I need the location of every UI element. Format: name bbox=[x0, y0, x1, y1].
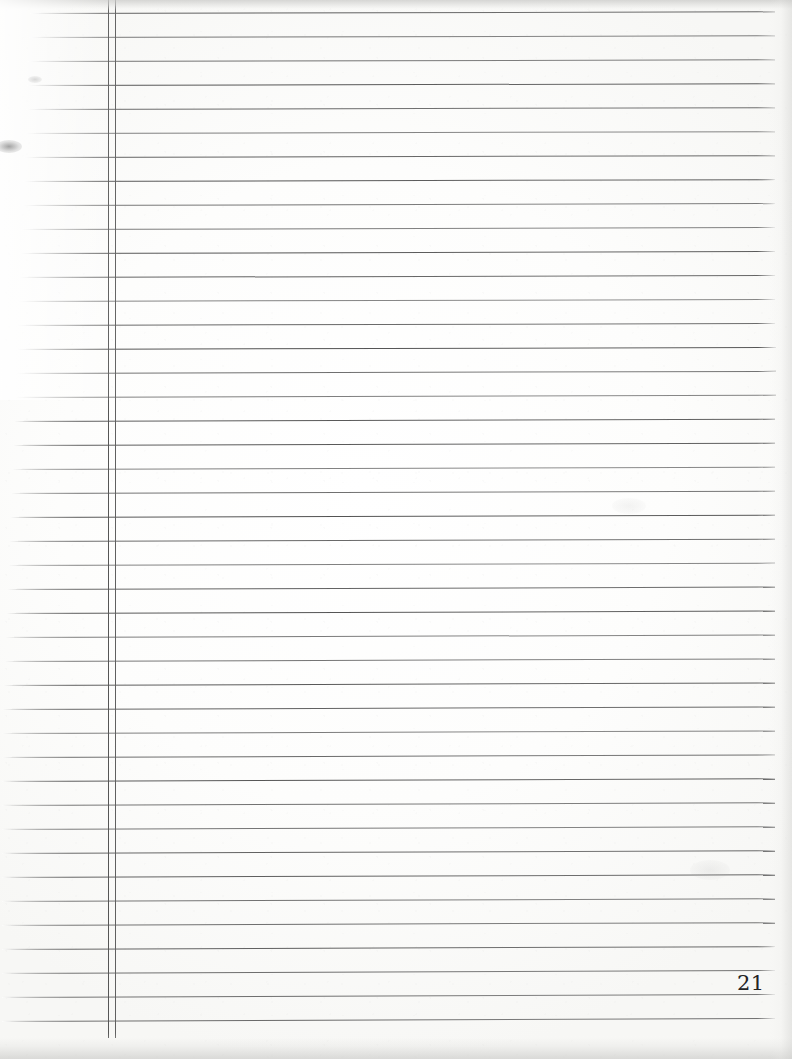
margin-rule-inner bbox=[115, 0, 116, 1038]
margin-rule-outer bbox=[108, 0, 109, 1038]
scanned-page: 21 bbox=[0, 0, 792, 1059]
paper-background bbox=[0, 0, 792, 1059]
page-number: 21 bbox=[737, 973, 765, 994]
